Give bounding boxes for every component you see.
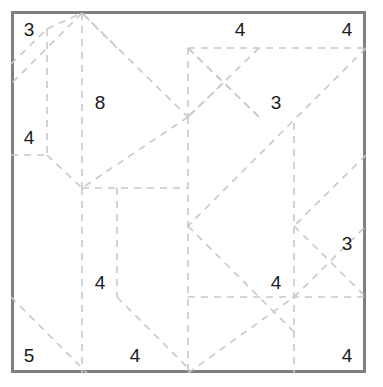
puzzle-lattice-lines xyxy=(0,0,383,387)
clue-3-right: 3 xyxy=(342,234,353,253)
clue-4-lower-left: 4 xyxy=(95,273,106,292)
seg-diag-bottom-mid[interactable] xyxy=(188,297,294,373)
clue-4-bottom-right: 4 xyxy=(342,346,353,365)
clue-3-top-left: 3 xyxy=(24,20,35,39)
clue-4-bottom-mid: 4 xyxy=(130,346,141,365)
puzzle-grid: 344834344544 xyxy=(0,0,383,387)
clue-4-top-right: 4 xyxy=(342,20,353,39)
clue-4-left: 4 xyxy=(24,128,35,147)
seg-diag-x47-down[interactable] xyxy=(47,155,82,188)
seg-diag-long-tr-bl[interactable] xyxy=(188,48,366,226)
seg-diag-bl-down[interactable] xyxy=(117,297,188,368)
seg-diag-center-bl[interactable] xyxy=(82,117,188,188)
seg-diag-right-mid[interactable] xyxy=(294,155,366,226)
clue-4-lower-right: 4 xyxy=(271,273,282,292)
clue-8-upper-left: 8 xyxy=(95,93,106,112)
seg-diag-bottom-left[interactable] xyxy=(11,297,87,373)
clue-5-bottom-left: 5 xyxy=(24,346,35,365)
clue-4-top-mid: 4 xyxy=(235,20,246,39)
clue-3-upper-right: 3 xyxy=(271,93,282,112)
seg-tl-diag-b[interactable] xyxy=(47,13,82,29)
